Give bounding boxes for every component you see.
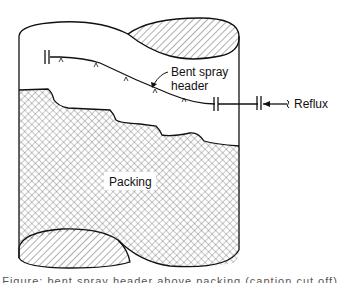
spray-header-label-2: header — [171, 79, 208, 93]
leader-line — [154, 72, 168, 84]
break-symbol-icon — [287, 100, 289, 108]
diagram-svg: Reflux Bent spray header Packing — [0, 0, 340, 283]
figure-caption-cutoff: Figure: bent spray header above packing … — [0, 272, 340, 283]
packing-label: Packing — [109, 175, 152, 189]
spray-header-label-1: Bent spray — [171, 65, 228, 79]
top-cutaway — [128, 18, 239, 59]
packed-column-diagram: Reflux Bent spray header Packing — [0, 0, 340, 283]
column-outline-top — [19, 22, 128, 36]
spray-nozzles — [59, 58, 186, 102]
reflux-label: Reflux — [294, 97, 328, 111]
reflux-arrow-icon — [263, 101, 270, 107]
